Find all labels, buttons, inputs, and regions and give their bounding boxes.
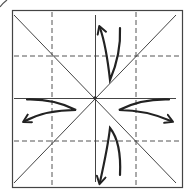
corner-mark: [0, 0, 7, 7]
center-point: [93, 96, 97, 100]
fold-diagram: [0, 0, 189, 195]
